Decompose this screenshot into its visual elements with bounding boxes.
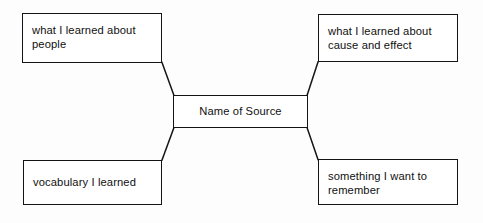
concept-node-center-label: Name of Source (180, 104, 301, 118)
connector-bottom-right (307, 128, 318, 160)
concept-map-canvas: what I learned about people what I learn… (0, 0, 483, 223)
connector-top-left (162, 63, 174, 96)
concept-node-bottom-right-label: something I want to remember (328, 160, 457, 198)
concept-node-bottom-left[interactable]: vocabulary I learned (23, 160, 162, 205)
concept-node-top-left-label: what I learned about people (32, 14, 161, 52)
concept-node-bottom-right[interactable]: something I want to remember (318, 159, 458, 205)
connector-top-right (307, 62, 318, 96)
concept-node-center[interactable]: Name of Source (173, 95, 308, 128)
concept-node-top-right-label: what I learned about cause and effect (328, 15, 457, 53)
concept-node-top-left[interactable]: what I learned about people (22, 13, 162, 63)
concept-node-top-right[interactable]: what I learned about cause and effect (318, 14, 458, 62)
connector-bottom-left (162, 128, 174, 161)
concept-node-bottom-left-label: vocabulary I learned (33, 175, 161, 189)
